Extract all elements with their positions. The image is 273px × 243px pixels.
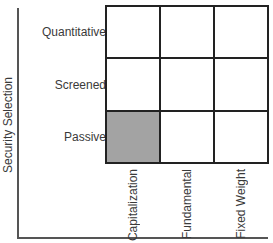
cell-passive-fundamental — [160, 111, 214, 163]
cell-screened-capitalization — [106, 58, 160, 110]
cell-quantitative-fixed-weight — [214, 6, 268, 58]
row-label-passive: Passive — [64, 130, 106, 144]
column-label-fundamental: Fundamental — [180, 169, 194, 239]
cell-passive-fixed-weight — [214, 111, 268, 163]
row-label-screened: Screened — [55, 78, 106, 92]
cell-passive-capitalization-highlighted — [106, 111, 160, 163]
cell-quantitative-fundamental — [160, 6, 214, 58]
y-axis-line — [17, 8, 19, 239]
cell-quantitative-capitalization — [106, 6, 160, 58]
cell-screened-fixed-weight — [214, 58, 268, 110]
column-label-capitalization: Capitalization — [126, 169, 140, 241]
x-axis-line — [17, 237, 268, 239]
y-axis-title: Security Selection — [1, 77, 15, 173]
row-label-quantitative: Quantitative — [42, 25, 106, 39]
column-label-fixed-weight: Fixed Weight — [234, 169, 248, 239]
selection-matrix-grid — [105, 5, 269, 164]
cell-screened-fundamental — [160, 58, 214, 110]
